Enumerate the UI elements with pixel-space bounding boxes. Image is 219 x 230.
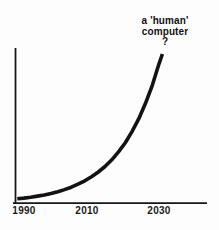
human-computer-annotation: a 'human' computer ? — [142, 16, 189, 48]
x-tick-2010: 2010 — [75, 205, 98, 216]
annotation-question-mark: ? — [142, 37, 189, 48]
x-tick-2030: 2030 — [147, 205, 170, 216]
annotation-line-1: a 'human' — [142, 16, 189, 27]
x-tick-1990: 1990 — [12, 205, 35, 216]
growth-curve-figure: a 'human' computer ? 1990 2010 2030 — [0, 0, 219, 230]
growth-curve — [17, 54, 162, 199]
